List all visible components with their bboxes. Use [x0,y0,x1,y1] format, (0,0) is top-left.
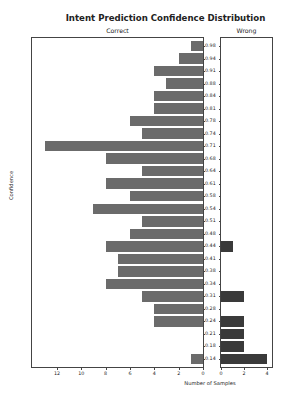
y-tick-label: 0.71 [205,143,221,149]
chart-title: Intent Prediction Confidence Distributio… [0,13,291,23]
y-tick-label: 0.78 [205,118,221,124]
y-tick-label: 0.44 [205,243,221,249]
y-tick-label: 0.18 [205,343,221,349]
y-tick-label: 0.61 [205,181,221,187]
x-tick-label: 4 [148,371,160,376]
y-tick-label: 0.68 [205,156,221,162]
x-tick-label: 4 [261,371,273,376]
y-tick-label: 0.51 [205,218,221,224]
x-tick-label: 12 [51,371,63,376]
y-tick-label: 0.14 [205,356,221,362]
x-tick-label: 6 [124,371,136,376]
y-axis-label: Confidence [8,171,14,200]
x-tick-label: 0 [215,371,227,376]
y-tick-label: 0.38 [205,268,221,274]
y-tick-label: 0.91 [205,68,221,74]
y-tick-label: 0.34 [205,281,221,287]
x-tick-label: 10 [75,371,87,376]
x-axis-label: Number of Samples [175,380,245,386]
x-tick-label: 8 [100,371,112,376]
panel-title-correct: Correct [31,27,204,34]
y-tick-label: 0.21 [205,331,221,337]
x-tick-label: 2 [238,371,250,376]
x-tick-label: 0 [197,371,209,376]
y-tick-label: 0.48 [205,231,221,237]
wrong-plot-area [220,37,273,368]
y-tick-label: 0.41 [205,256,221,262]
y-tick-label: 0.24 [205,318,221,324]
y-tick-label: 0.98 [205,43,221,49]
y-tick-label: 0.84 [205,93,221,99]
y-tick-label: 0.58 [205,193,221,199]
y-tick-label: 0.31 [205,293,221,299]
y-tick-label: 0.28 [205,306,221,312]
y-tick-label: 0.81 [205,106,221,112]
y-tick-label: 0.54 [205,206,221,212]
y-tick-label: 0.94 [205,56,221,62]
x-tick-label: 2 [173,371,185,376]
y-tick-label: 0.74 [205,131,221,137]
y-tick-label: 0.64 [205,168,221,174]
y-tick-label: 0.88 [205,81,221,87]
correct-plot-area [31,37,204,368]
panel-title-wrong: Wrong [220,27,273,34]
